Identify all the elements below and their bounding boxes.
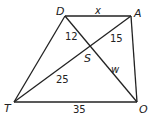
vertex-label-O: O: [139, 103, 148, 116]
segment-label-AS: 15: [110, 33, 123, 44]
vertex-label-S: S: [84, 52, 91, 65]
segment-label-DA: x: [94, 5, 101, 16]
vertex-label-D: D: [56, 5, 64, 18]
side-DT: [14, 16, 65, 102]
segment-label-DS: 12: [65, 31, 78, 42]
diagonal-DO: [65, 16, 137, 102]
vertex-label-T: T: [4, 102, 12, 115]
side-AO: [131, 16, 137, 102]
vertex-label-A: A: [133, 7, 142, 20]
diagonal-TA: [14, 16, 131, 102]
segment-label-TO: 35: [73, 104, 86, 115]
trapezoid-diagram: D A T O S x 12 15 25 w 35: [0, 0, 155, 118]
segment-label-SO: w: [111, 64, 120, 75]
segment-label-TS: 25: [56, 74, 69, 85]
